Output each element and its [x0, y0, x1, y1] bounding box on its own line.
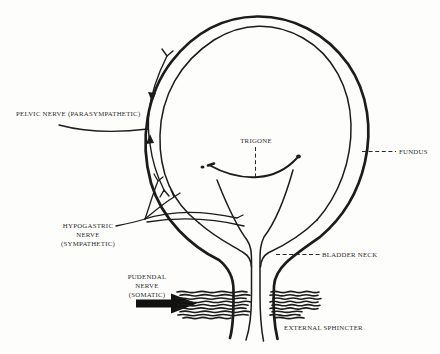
sphincter-hatching-left [176, 291, 251, 318]
label-hypogastric-line3: (SYMPATHETIC) [48, 239, 128, 248]
label-fundus: FUNDUS [399, 147, 428, 156]
leader-lines-dashed [256, 147, 397, 255]
label-hypogastric-line2: NERVE [48, 230, 128, 239]
nerve-arrowhead-up-icon [146, 134, 154, 144]
label-trigone: TRIGONE [230, 136, 282, 145]
label-hypogastric-line1: HYPOGASTRIC [48, 221, 128, 230]
pelvic-nerve-path [59, 49, 173, 197]
label-pelvic-nerve: PELVIC NERVE (PARASYMPATHETIC) [16, 109, 140, 118]
label-external-sphincter: EXTERNAL SPHINCTER [284, 323, 363, 332]
bladder-innervation-diagram: PELVIC NERVE (PARASYMPATHETIC) TRIGONE F… [0, 0, 440, 354]
diagram-artwork [0, 0, 440, 354]
ureteral-orifice-dot [296, 155, 301, 159]
label-bladder-neck: BLADDER NECK [322, 250, 377, 259]
nerve-arrowhead-down-icon [148, 92, 156, 102]
label-pudendal-line2: NERVE [112, 281, 182, 290]
label-pudendal-nerve: PUDENDAL NERVE (SOMATIC) [112, 272, 182, 299]
bladder-inner-wall [160, 26, 351, 267]
label-pudendal-line3: (SOMATIC) [112, 290, 182, 299]
label-hypogastric-nerve: HYPOGASTRIC NERVE (SYMPATHETIC) [48, 221, 128, 248]
pelvic-nerve-leader [59, 125, 148, 131]
label-pudendal-line1: PUDENDAL [112, 272, 182, 281]
sphincter-hatching-right [270, 291, 321, 318]
ureteral-orifice-dot [201, 165, 205, 168]
trigone-outline [201, 155, 301, 178]
